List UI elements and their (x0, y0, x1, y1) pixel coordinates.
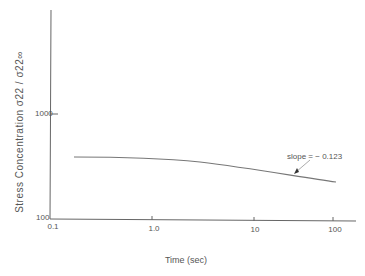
x-tick-label-0.1: 0.1 (47, 222, 58, 231)
y-axis-label-container: Stress Concentration σ22 / σ22∞ (4, 0, 34, 276)
x-tick-label-10: 10 (251, 225, 260, 234)
x-axis-label: Time (sec) (165, 255, 207, 265)
y-tick-label-1000: 1000 (35, 109, 53, 118)
chart-canvas (0, 0, 365, 276)
y-tick-label-100: 100 (36, 213, 49, 222)
slope-leader-line (296, 160, 310, 172)
x-tick-label-1: 1.0 (148, 224, 159, 233)
y-axis-label: Stress Concentration σ22 / σ22∞ (14, 51, 25, 213)
arrow-head-icon (294, 168, 299, 174)
x-tick-label-100: 100 (328, 225, 341, 234)
x-axis (50, 219, 356, 221)
slope-annotation: slope = − 0.123 (287, 152, 342, 161)
